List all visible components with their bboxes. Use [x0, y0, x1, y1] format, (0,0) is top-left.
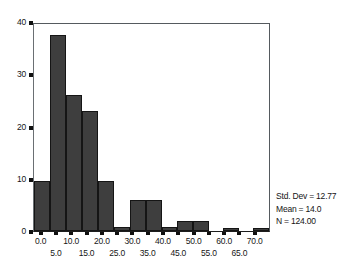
histogram-bar — [50, 35, 66, 231]
x-axis-tick-mark — [54, 232, 58, 235]
x-axis-tick-mark — [222, 232, 226, 235]
x-axis-tick-mark — [146, 232, 150, 235]
x-axis-tick-mark — [207, 232, 211, 235]
x-axis-tick-mark — [100, 232, 104, 235]
histogram-figure: 010203040 0.05.010.015.020.025.030.035.0… — [0, 0, 351, 274]
x-axis-tick-label: 20.0 — [94, 236, 110, 246]
x-axis-tick-mark — [69, 232, 73, 235]
x-axis-tick-label: 40.0 — [155, 236, 171, 246]
x-axis-tick-mark — [237, 232, 241, 235]
x-axis-tick-mark — [85, 232, 89, 235]
histogram-bar — [223, 228, 239, 231]
n-label: N = 124.00 — [276, 215, 351, 228]
histogram-bar — [253, 228, 269, 231]
x-axis-tick-label: 5.0 — [50, 248, 61, 258]
y-axis-tick-label: 0 — [21, 226, 26, 236]
histogram-bar — [193, 221, 209, 231]
x-axis-tick-label: 35.0 — [140, 248, 156, 258]
plot-area — [33, 23, 270, 232]
x-axis-tick-label: 70.0 — [247, 236, 263, 246]
x-axis-tick-mark — [192, 232, 196, 235]
histogram-bar — [162, 227, 178, 231]
histogram-bar — [177, 221, 193, 231]
y-axis-tick-label: 40 — [17, 17, 26, 27]
histogram-bar — [82, 111, 98, 231]
histogram-bar — [114, 227, 130, 231]
histogram-bar — [130, 200, 146, 231]
histogram-bar — [98, 181, 114, 231]
x-axis-tick-label: 25.0 — [109, 248, 125, 258]
histogram-bar — [66, 95, 82, 231]
histogram-bar — [146, 200, 162, 231]
x-axis-tick-mark — [176, 232, 180, 235]
bar-series — [34, 24, 269, 231]
x-axis-tick-label: 0.0 — [35, 236, 46, 246]
y-axis: 010203040 — [0, 0, 33, 274]
x-axis-tick-label: 45.0 — [170, 248, 186, 258]
x-axis-tick-mark — [39, 232, 43, 235]
x-axis-tick-label: 55.0 — [201, 248, 217, 258]
std-dev-label: Std. Dev = 12.77 — [276, 190, 351, 203]
x-axis-tick-label: 10.0 — [63, 236, 79, 246]
x-axis-tick-mark — [130, 232, 134, 235]
x-axis-tick-mark — [115, 232, 119, 235]
histogram-bar — [34, 181, 50, 231]
x-axis: 0.05.010.015.020.025.030.035.040.045.050… — [33, 232, 270, 274]
y-axis-tick-label: 20 — [17, 122, 26, 132]
x-axis-tick-label: 60.0 — [216, 236, 232, 246]
y-axis-tick-label: 30 — [17, 69, 26, 79]
x-axis-tick-label: 15.0 — [79, 248, 95, 258]
x-axis-tick-mark — [161, 232, 165, 235]
y-axis-tick-label: 10 — [17, 174, 26, 184]
x-axis-tick-label: 65.0 — [232, 248, 248, 258]
statistics-annotation: Std. Dev = 12.77 Mean = 14.0 N = 124.00 — [276, 190, 351, 228]
x-axis-tick-label: 50.0 — [186, 236, 202, 246]
mean-label: Mean = 14.0 — [276, 203, 351, 216]
x-axis-tick-mark — [253, 232, 257, 235]
x-axis-tick-label: 30.0 — [125, 236, 141, 246]
